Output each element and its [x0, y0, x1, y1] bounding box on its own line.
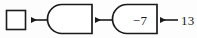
function-machine-2-label: −7 — [133, 13, 148, 28]
diagram-canvas: −7 13 — [0, 0, 197, 38]
function-machine-1[interactable] — [48, 5, 92, 34]
answer-box[interactable] — [7, 11, 26, 30]
input-value-label: 13 — [181, 13, 195, 28]
function-machine-diagram: −7 13 — [0, 0, 197, 38]
